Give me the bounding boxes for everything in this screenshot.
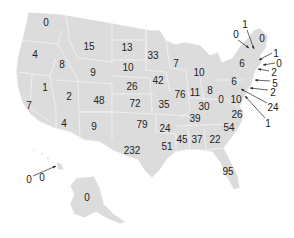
callout-value-label: 1 xyxy=(242,19,248,30)
state-value-label: 95 xyxy=(222,166,234,177)
hawaii-island xyxy=(33,149,35,151)
alaska-shape xyxy=(70,176,126,224)
state-value-label: 232 xyxy=(124,145,141,156)
callout-value-label: 1 xyxy=(265,118,271,129)
hawaii-island xyxy=(47,157,50,160)
state-value-label: 48 xyxy=(93,95,105,106)
state-value-label: 42 xyxy=(152,75,164,86)
us-map: 0151333489107126421024872761187350103049… xyxy=(0,0,294,238)
arrowhead-icon xyxy=(255,79,258,82)
state-value-label: 15 xyxy=(83,41,95,52)
state-value-label: 76 xyxy=(174,89,186,100)
leader-line xyxy=(245,96,265,118)
state-value-label: 4 xyxy=(61,118,67,129)
state-value-label: 79 xyxy=(136,119,148,130)
state-value-label: 51 xyxy=(161,141,173,152)
state-value-label: 35 xyxy=(158,99,170,110)
state-value-label: 33 xyxy=(147,50,159,61)
callout-value-label: 0 xyxy=(276,58,282,69)
state-value-label: 30 xyxy=(198,101,210,112)
state-value-label: 39 xyxy=(189,113,201,124)
callout-value-label: 0 xyxy=(26,174,32,185)
state-value-label: 0 xyxy=(39,172,45,183)
hawaii-island xyxy=(41,153,44,156)
state-value-label: 8 xyxy=(207,85,213,96)
state-value-label: 9 xyxy=(90,67,96,78)
state-value-label: 7 xyxy=(26,100,32,111)
state-value-label: 11 xyxy=(190,87,201,98)
state-value-label: 54 xyxy=(223,122,235,133)
state-value-label: 10 xyxy=(122,62,134,73)
state-value-label: 8 xyxy=(59,59,65,70)
callout-value-label: 24 xyxy=(267,102,279,113)
hawaii-shape xyxy=(56,162,64,170)
state-value-label: 0 xyxy=(43,17,49,28)
state-value-label: 10 xyxy=(230,94,242,105)
state-value-label: 7 xyxy=(173,58,179,69)
state-value-label: 10 xyxy=(193,67,205,78)
state-value-label: 26 xyxy=(231,109,243,120)
state-value-label: 1 xyxy=(42,82,48,93)
state-value-label: 0 xyxy=(218,94,224,105)
state-value-label: 9 xyxy=(91,121,97,132)
state-value-label: 6 xyxy=(239,58,245,69)
state-value-label: 0 xyxy=(84,192,90,203)
state-value-label: 45 xyxy=(176,134,188,145)
state-value-label: 2 xyxy=(66,91,72,102)
state-value-label: 0 xyxy=(259,33,265,44)
callout-value-label: 2 xyxy=(270,87,276,98)
state-value-label: 22 xyxy=(209,134,221,145)
state-value-label: 72 xyxy=(129,98,141,109)
callout-value-label: 2 xyxy=(271,67,277,78)
state-value-label: 13 xyxy=(121,42,133,53)
arrowhead-icon xyxy=(258,68,261,71)
state-value-label: 26 xyxy=(126,81,138,92)
arrowhead-icon xyxy=(263,63,266,66)
state-value-label: 4 xyxy=(32,49,38,60)
state-value-label: 6 xyxy=(231,76,237,87)
state-value-label: 24 xyxy=(159,123,171,134)
callout-value-label: 0 xyxy=(233,29,239,40)
state-value-label: 37 xyxy=(191,134,203,145)
